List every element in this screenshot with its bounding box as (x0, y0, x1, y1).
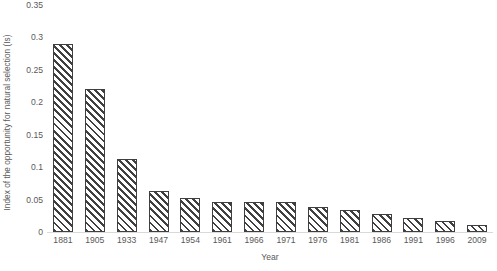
x-axis-tick-label: 1954 (174, 236, 206, 245)
bar-chart: Index of the opportunity for natural sel… (0, 0, 497, 271)
bar-slot (334, 5, 366, 232)
bar-slot (111, 5, 143, 232)
bar-slot (238, 5, 270, 232)
bar-slot (270, 5, 302, 232)
bar (372, 214, 392, 232)
y-axis-tick-label: 0.2 (31, 98, 43, 107)
bar (276, 202, 296, 232)
bar-series (47, 5, 493, 232)
plot-area (47, 5, 493, 233)
bar (467, 225, 487, 232)
bar-slot (429, 5, 461, 232)
bar-slot (47, 5, 79, 232)
bar (403, 218, 423, 232)
bar (212, 202, 232, 232)
x-axis-tick-label: 1966 (238, 236, 270, 245)
x-axis-tick-label: 1933 (111, 236, 143, 245)
x-axis-tick-label: 1971 (270, 236, 302, 245)
bar (149, 191, 169, 232)
x-axis-tick-label: 1981 (334, 236, 366, 245)
y-axis-tick-label: 0.25 (26, 66, 43, 75)
bar (244, 202, 264, 232)
bar-slot (302, 5, 334, 232)
y-axis-title-label: Index of the opportunity for natural sel… (4, 35, 13, 211)
bar (117, 159, 137, 232)
bar (340, 210, 360, 232)
y-axis-tick-label: 0.1 (31, 163, 43, 172)
bar (435, 221, 455, 232)
x-axis-tick-label: 1947 (143, 236, 175, 245)
y-axis-tick-label: 0.15 (26, 130, 43, 139)
x-axis-tick-label: 1991 (397, 236, 429, 245)
bar-slot (397, 5, 429, 232)
x-axis-tick-label: 1996 (429, 236, 461, 245)
bar (180, 198, 200, 232)
x-axis-tick-label: 2009 (461, 236, 493, 245)
x-axis-tick-label: 1881 (47, 236, 79, 245)
x-axis-tick-labels: 1881190519331947195419611966197119761981… (47, 236, 493, 250)
bar-slot (206, 5, 238, 232)
y-axis-title: Index of the opportunity for natural sel… (0, 0, 16, 245)
bar-slot (174, 5, 206, 232)
y-axis-tick-label: 0.35 (26, 1, 43, 10)
x-axis-tick-label: 1986 (366, 236, 398, 245)
bar-slot (366, 5, 398, 232)
bar (85, 89, 105, 232)
bar (53, 44, 73, 232)
y-axis-tick-labels: 00.050.10.150.20.250.30.35 (16, 0, 46, 245)
x-axis-tick-label: 1905 (79, 236, 111, 245)
y-axis-tick-label: 0.05 (26, 195, 43, 204)
x-axis-tick-label: 1961 (206, 236, 238, 245)
x-axis-tick-label: 1976 (302, 236, 334, 245)
bar-slot (143, 5, 175, 232)
y-axis-tick-label: 0 (38, 228, 43, 237)
y-axis-tick-label: 0.3 (31, 33, 43, 42)
bar-slot (79, 5, 111, 232)
bar (308, 207, 328, 232)
x-axis-line (47, 232, 493, 233)
x-axis-title: Year (47, 252, 493, 262)
bar-slot (461, 5, 493, 232)
